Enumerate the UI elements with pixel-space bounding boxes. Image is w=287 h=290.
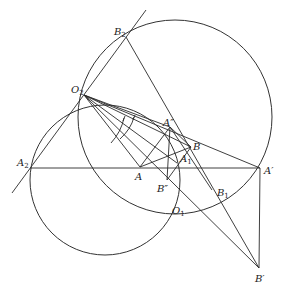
angle-arc-outer	[120, 117, 134, 139]
label-o2: O2	[71, 84, 84, 97]
small-circle	[30, 105, 180, 255]
label-a: A	[134, 171, 142, 182]
label-b: B	[192, 141, 200, 152]
seg-a-dd-b-dd	[167, 127, 170, 180]
angle-arc-inner	[111, 118, 124, 143]
label-b-double-prime: B″	[156, 183, 168, 194]
line-aprime-bprime	[259, 168, 260, 268]
label-a2: A2	[16, 157, 29, 170]
ray-o2-aprime	[84, 95, 260, 168]
angle-tick-1	[123, 116, 125, 121]
label-a-double-prime: A″	[162, 117, 174, 128]
label-b-prime: B′	[254, 273, 265, 284]
label-a1: A1	[179, 153, 192, 166]
label-a-prime: A′	[263, 165, 274, 176]
ray-o2-b	[84, 95, 191, 147]
label-o1: O1	[172, 205, 185, 218]
line-b2-bprime	[126, 37, 259, 268]
ray-o2-a1	[84, 95, 177, 163]
geometry-diagram: O2 B2 A2 A B A″ B″ A1 B1 O1 A′ B′	[0, 0, 287, 290]
seg-a-dd-b	[170, 127, 191, 147]
label-b1: B1	[216, 187, 229, 200]
